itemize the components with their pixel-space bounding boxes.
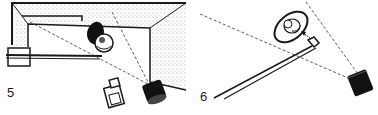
light-head (308, 37, 319, 47)
subject-head (284, 19, 300, 33)
figure-number: 6 (200, 90, 207, 103)
light-beam-line (200, 14, 348, 78)
figure-5: 5 (0, 0, 190, 115)
figure-6: 6 (188, 0, 378, 115)
spotlight (347, 69, 374, 97)
figure-5-drawing (0, 0, 190, 115)
boom-base (8, 48, 30, 66)
figure-6-drawing (188, 0, 378, 115)
boom-pole (6, 55, 102, 56)
figure-number: 5 (7, 86, 14, 99)
boom-pole (214, 46, 312, 98)
